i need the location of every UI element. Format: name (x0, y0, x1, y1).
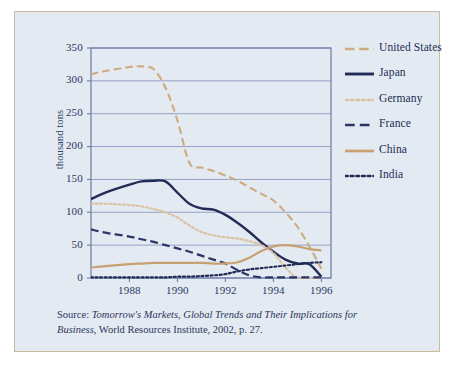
legend-label: India (379, 168, 403, 180)
legend-swatch-icon (345, 66, 374, 78)
source-caption: Source: Tomorrow's Markets, Global Trend… (57, 308, 397, 337)
legend-swatch-icon (345, 41, 374, 53)
legend-swatch-icon (345, 168, 374, 180)
axis-frame (91, 48, 331, 278)
legend-item-germany[interactable]: Germany (345, 85, 441, 111)
legend-swatch-icon (345, 143, 374, 155)
legend-item-china[interactable]: China (345, 136, 441, 162)
legend-item-india[interactable]: India (345, 162, 441, 188)
legend-item-united-states[interactable]: United States (345, 34, 441, 60)
legend-label: China (379, 143, 407, 155)
legend-label: United States (379, 41, 442, 53)
legend-swatch-icon (345, 92, 374, 104)
legend-label: Germany (379, 92, 423, 104)
series-line-united-states (91, 66, 321, 269)
legend-item-france[interactable]: France (345, 111, 441, 137)
legend-swatch-icon (345, 117, 374, 129)
source-prefix: Source: (57, 309, 92, 320)
series-line-china (91, 245, 321, 267)
chart-legend: United StatesJapanGermanyFranceChinaIndi… (345, 34, 441, 187)
legend-label: Japan (379, 66, 406, 78)
legend-item-japan[interactable]: Japan (345, 60, 441, 86)
legend-label: France (379, 117, 411, 129)
figure-panel: thousand tons 350300250200150100500 1988… (14, 11, 440, 352)
source-rest: , World Resources Institute, 2002, p. 27… (94, 324, 263, 335)
